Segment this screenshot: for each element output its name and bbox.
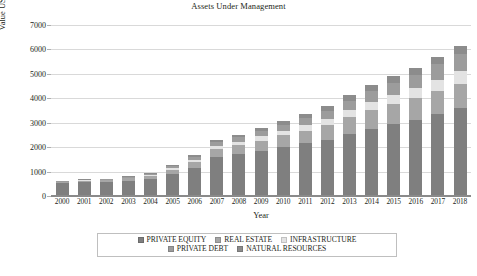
x-axis-tick: 2016 [405, 197, 427, 209]
bar-segment [321, 111, 334, 119]
stacked-bar [100, 179, 113, 196]
bar-segment [387, 104, 400, 124]
stacked-bar [210, 140, 223, 196]
bar-segment [409, 75, 422, 88]
x-axis-tick: 2004 [139, 197, 161, 209]
stacked-bar [232, 135, 245, 196]
bar-segment [454, 46, 467, 54]
bar-segment [122, 181, 135, 196]
bar-segment [100, 182, 113, 196]
bar-column [338, 25, 360, 196]
x-axis-tick: 2005 [162, 197, 184, 209]
x-axis-tick: 2014 [361, 197, 383, 209]
x-axis-tick: 2017 [427, 197, 449, 209]
bar-segment [431, 114, 444, 196]
x-axis-tick: 2010 [272, 197, 294, 209]
bar-column [294, 25, 316, 196]
bar-segment [277, 135, 290, 147]
bar-segment [409, 88, 422, 98]
x-axis-tick: 2013 [338, 197, 360, 209]
x-axis-tick: 2002 [95, 197, 117, 209]
stacked-bar [277, 121, 290, 196]
bar-segment [299, 118, 312, 125]
bar-segment [232, 145, 245, 154]
stacked-bar [454, 46, 467, 196]
bar-segment [387, 95, 400, 104]
x-axis-tick-labels: 2000200120022003200420052006200720082009… [51, 197, 471, 209]
bar-segment [166, 174, 179, 196]
chart-figure: Assets Under Management Value USD bn 010… [0, 0, 477, 276]
bar-segment [409, 120, 422, 196]
bar-segment [321, 119, 334, 126]
bar-segment [431, 57, 444, 65]
bar-column [73, 25, 95, 196]
bar-segment [255, 141, 268, 151]
bar-column [117, 25, 139, 196]
bar-segment [343, 134, 356, 196]
x-axis-tick: 2006 [184, 197, 206, 209]
bar-column [383, 25, 405, 196]
bar-segment [365, 110, 378, 129]
y-axis-label: Value USD bn [0, 0, 7, 66]
x-axis-label: Year [51, 210, 471, 220]
stacked-bar [255, 128, 268, 196]
stacked-bar [365, 85, 378, 196]
stacked-bar [387, 76, 400, 196]
bar-column [184, 25, 206, 196]
stacked-bar [321, 106, 334, 196]
x-axis-tick: 2009 [250, 197, 272, 209]
bar-segment [387, 83, 400, 95]
bar-segment [255, 151, 268, 196]
bar-segment [277, 147, 290, 196]
bar-column [250, 25, 272, 196]
x-axis-tick: 2015 [383, 197, 405, 209]
chart-title: Assets Under Management [0, 1, 477, 11]
bar-segment [431, 64, 444, 79]
x-axis-tick: 2003 [117, 197, 139, 209]
bar-column [51, 25, 73, 196]
legend-item[interactable]: NATURAL RESOURCES [237, 245, 326, 254]
bar-segment [409, 68, 422, 75]
bar-column [316, 25, 338, 196]
legend-swatch-icon [168, 246, 174, 252]
legend-swatch-icon [215, 237, 221, 243]
x-axis-tick: 2018 [449, 197, 471, 209]
legend-row-2: PRIVATE DEBTNATURAL RESOURCES [102, 245, 392, 254]
stacked-bar [78, 179, 91, 196]
bar-column [95, 25, 117, 196]
stacked-bar [188, 155, 201, 196]
bar-column [206, 25, 228, 196]
stacked-bar [166, 165, 179, 196]
chart-legend: PRIVATE EQUITYREAL ESTATEINFRASTRUCTURE … [97, 233, 397, 257]
legend-swatch-icon [281, 237, 287, 243]
bar-segment [387, 76, 400, 83]
bar-segment [409, 98, 422, 120]
bar-segment [454, 84, 467, 108]
x-axis-tick: 2007 [206, 197, 228, 209]
bar-segment [431, 80, 444, 91]
stacked-bar [431, 57, 444, 196]
bar-column [405, 25, 427, 196]
bar-segment [144, 179, 157, 196]
bar-column [228, 25, 250, 196]
x-axis-tick: 2000 [51, 197, 73, 209]
legend-label: PRIVATE DEBT [177, 245, 228, 254]
x-axis-tick: 2012 [316, 197, 338, 209]
bar-column [139, 25, 161, 196]
bar-segment [343, 117, 356, 134]
bar-segment [365, 102, 378, 110]
bar-segment [299, 131, 312, 144]
bar-segment [210, 149, 223, 157]
bar-segment [387, 124, 400, 196]
bar-column [449, 25, 471, 196]
legend-item[interactable]: PRIVATE DEBT [168, 245, 228, 254]
bar-segment [365, 129, 378, 196]
bar-segment [454, 71, 467, 84]
stacked-bar [299, 114, 312, 196]
x-axis-tick: 2001 [73, 197, 95, 209]
bar-segment [188, 168, 201, 196]
legend-swatch-icon [237, 246, 243, 252]
bar-column [162, 25, 184, 196]
stacked-bar [343, 95, 356, 196]
x-axis-tick: 2011 [294, 197, 316, 209]
